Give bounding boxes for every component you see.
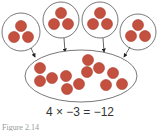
counter-dot (62, 84, 73, 95)
counter-dot (16, 21, 27, 32)
counter-dot (117, 79, 128, 90)
counter-dot (82, 67, 93, 78)
group-3 (82, 2, 118, 38)
counter-dot (88, 19, 99, 30)
counter-dot (63, 19, 74, 30)
arrow-icon (64, 38, 65, 52)
counter-dot (56, 8, 67, 19)
counter-dot (126, 31, 137, 42)
group-2 (43, 2, 79, 38)
equation-label: 4 × −3 = −12 (0, 105, 160, 119)
counter-dot (133, 20, 144, 31)
counter-dot (47, 73, 58, 84)
figure-caption: Figure 2.14 (2, 123, 39, 131)
counter-dot (35, 76, 46, 87)
group-circle (2, 13, 40, 51)
counter-dot (101, 80, 112, 91)
arrow-icon (124, 47, 130, 57)
group-4 (120, 14, 156, 50)
counter-dot (95, 8, 106, 19)
arrow-icon (103, 38, 104, 52)
counter-dot (74, 79, 85, 90)
counter-dot (9, 32, 20, 43)
counter-dot (102, 19, 113, 30)
counter-dot (61, 71, 72, 82)
counter-dot (108, 68, 119, 79)
group-1 (2, 13, 40, 51)
counter-dot (140, 31, 151, 42)
counter-dot (49, 19, 60, 30)
counter-dot (94, 63, 105, 74)
counter-dot (35, 63, 46, 74)
counter-dot (83, 55, 94, 66)
arrow-icon (31, 48, 35, 57)
counter-dot (23, 32, 34, 43)
